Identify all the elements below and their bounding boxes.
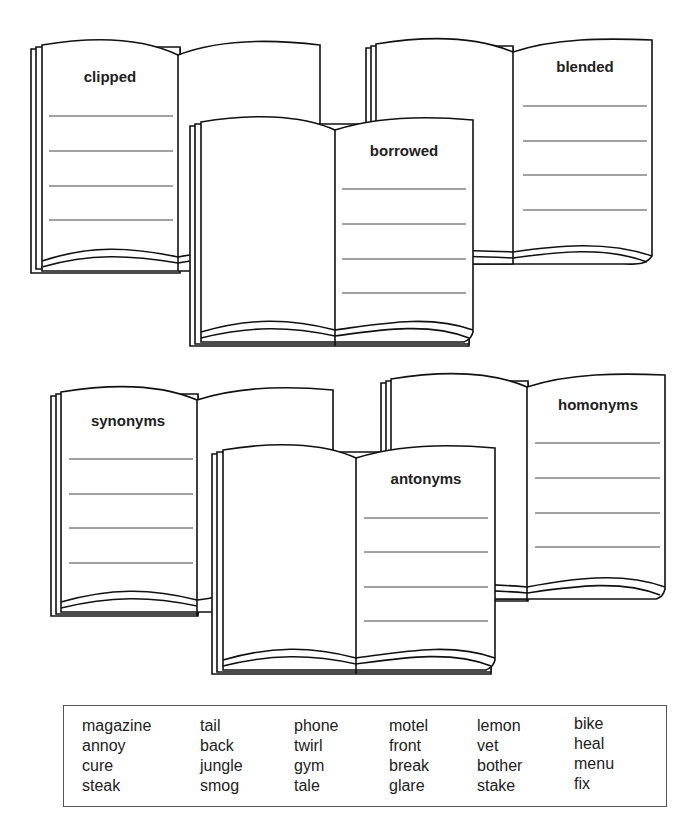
word: smog	[200, 776, 243, 796]
word: magazine	[82, 716, 151, 736]
book-title: blended	[540, 58, 630, 75]
word: vet	[477, 736, 522, 756]
word-column: lemon vet bother stake	[477, 716, 522, 796]
book-title: borrowed	[359, 142, 449, 159]
word: annoy	[82, 736, 151, 756]
book-title: synonyms	[83, 412, 173, 429]
word-column: motel front break glare	[389, 716, 429, 796]
book-title: clipped	[70, 68, 150, 85]
word: tail	[200, 716, 243, 736]
word: front	[389, 736, 429, 756]
book-borrowed: borrowed	[189, 118, 479, 350]
word-column: bike heal menu fix	[574, 714, 614, 794]
word: bike	[574, 714, 614, 734]
word: twirl	[294, 736, 339, 756]
word-column: phone twirl gym tale	[294, 716, 339, 796]
word: break	[389, 756, 429, 776]
word-bank: magazine annoy cure steak tail back jung…	[63, 705, 667, 807]
word: lemon	[477, 716, 522, 736]
word: phone	[294, 716, 339, 736]
word: menu	[574, 754, 614, 774]
book-title: antonyms	[381, 470, 471, 487]
word: gym	[294, 756, 339, 776]
word: steak	[82, 776, 151, 796]
word: motel	[389, 716, 429, 736]
book-antonyms: antonyms	[211, 446, 501, 678]
word: bother	[477, 756, 522, 776]
word: cure	[82, 756, 151, 776]
word: jungle	[200, 756, 243, 776]
word: back	[200, 736, 243, 756]
word-column: tail back jungle smog	[200, 716, 243, 796]
book-title: homonyms	[548, 396, 648, 413]
word: tale	[294, 776, 339, 796]
word: stake	[477, 776, 522, 796]
word-column: magazine annoy cure steak	[82, 716, 151, 796]
word: glare	[389, 776, 429, 796]
word: fix	[574, 774, 614, 794]
word: heal	[574, 734, 614, 754]
